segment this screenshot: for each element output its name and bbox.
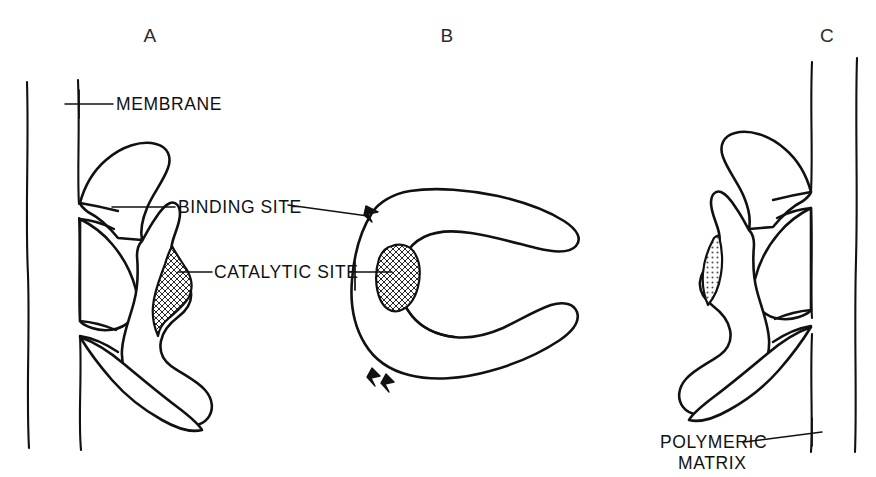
- membrane-inner-line-a-lower: [80, 336, 81, 450]
- binding-site-barb-b-lower-1: [367, 368, 380, 386]
- callout-label-membrane: MEMBRANE: [116, 94, 222, 114]
- panel-c-group: C: [679, 25, 857, 452]
- callout-text-group: MEMBRANE BINDING SITE CATALYTIC SITE POL…: [116, 94, 767, 473]
- callout-label-polymeric: POLYMERIC: [660, 432, 767, 452]
- diagram-canvas: A B: [0, 0, 876, 477]
- matrix-outer-line-c: [855, 58, 857, 452]
- catalytic-site-hatch-b: [376, 245, 420, 312]
- callout-label-catalytic-site: CATALYTIC SITE: [214, 262, 359, 282]
- figure-container: A B: [0, 0, 876, 477]
- callout-label-matrix: MATRIX: [678, 453, 746, 473]
- membrane-outer-line-a: [27, 82, 29, 448]
- callout-label-binding-site: BINDING SITE: [178, 197, 302, 217]
- binding-site-barb-b-lower-2: [381, 374, 394, 392]
- panel-letter-a: A: [143, 25, 156, 46]
- panel-letter-c: C: [820, 25, 834, 46]
- panel-b-group: B: [352, 25, 579, 392]
- panel-a-group: A: [27, 25, 212, 450]
- panel-letter-b: B: [440, 25, 453, 46]
- matrix-inner-line-c-upper: [811, 62, 812, 192]
